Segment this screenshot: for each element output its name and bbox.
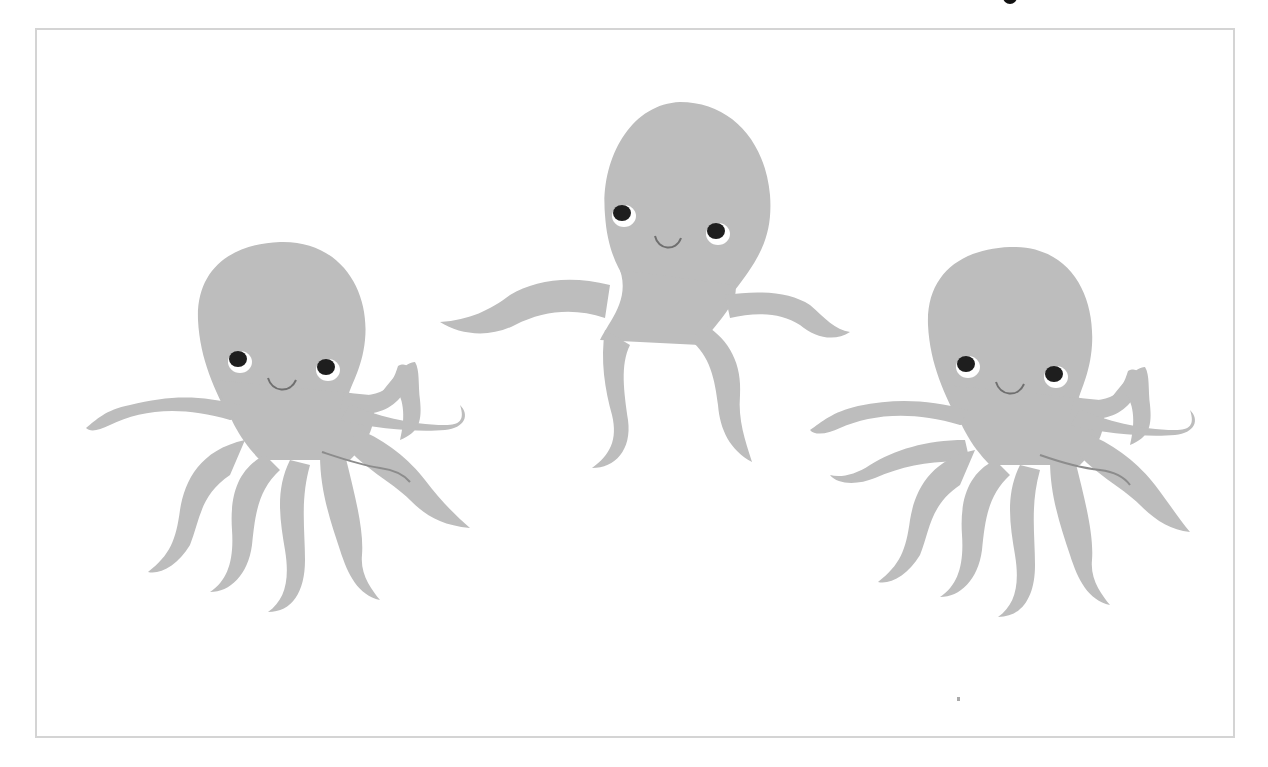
left-octopus-eye-right (316, 359, 340, 381)
center-octopus-eye-left (612, 205, 636, 227)
center-octopus (440, 102, 850, 468)
left-octopus-eye-left (228, 351, 252, 373)
right-octopus-eye-left (956, 356, 980, 378)
right-octopus-eye-right (1044, 366, 1068, 388)
octopus-illustration (0, 0, 1268, 767)
center-octopus-eye-right (706, 223, 730, 245)
left-octopus (86, 242, 470, 612)
right-octopus (810, 247, 1195, 617)
